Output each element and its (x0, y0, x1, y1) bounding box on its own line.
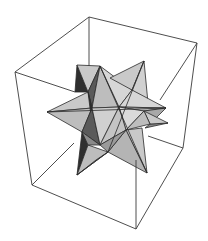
figure-canvas: Small stellated dodecahedron in bounding… (0, 0, 208, 241)
polyhedron-graphic (0, 0, 208, 241)
stellated-polyhedron (47, 61, 168, 175)
